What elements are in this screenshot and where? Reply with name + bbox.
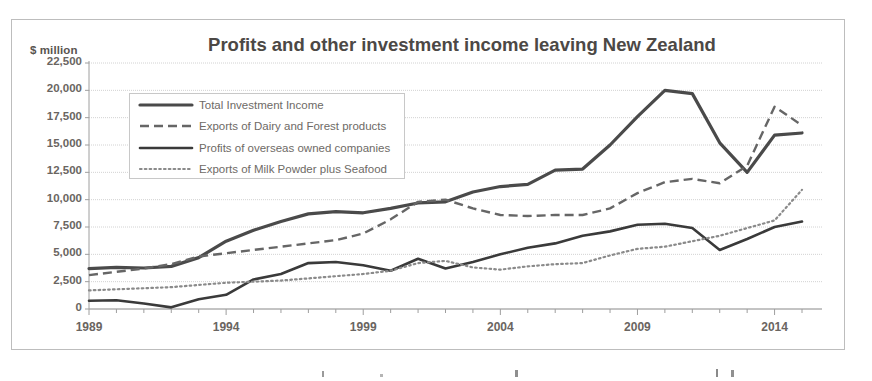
y-axis-tick-label: 2,500 [20,274,82,286]
legend-item[interactable]: Exports of Milk Powder plus Seafood [130,159,404,181]
y-axis-tick-label: 10,000 [20,192,82,204]
plot-area: 02,5005,0007,50010,00012,50015,00017,500… [12,20,846,351]
legend-item[interactable]: Profits of overseas owned companies [130,137,404,159]
scan-artifact-decoration [0,357,872,381]
legend-item[interactable]: Total Investment Income [130,94,404,116]
y-axis-tick-label: 12,500 [20,164,82,176]
legend-label: Exports of Dairy and Forest products [199,120,386,132]
y-axis-tick-label: 17,500 [20,110,82,122]
x-axis-tick-label: 1994 [196,320,256,334]
legend-line-swatch [138,120,194,132]
y-axis-tick-label: 20,000 [20,82,82,94]
chart-legend: Total Investment IncomeExports of Dairy … [129,93,405,179]
chart-frame: $ million Profits and other investment i… [11,19,845,350]
legend-line-swatch [138,163,194,175]
y-axis-tick-label: 22,500 [20,55,82,67]
plot-svg [12,20,846,351]
series-line-2 [89,222,802,308]
y-axis-tick-label: 7,500 [20,219,82,231]
y-axis-tick-label: 5,000 [20,246,82,258]
y-axis-tick-label: 15,000 [20,137,82,149]
legend-label: Exports of Milk Powder plus Seafood [199,163,387,175]
x-axis-tick-label: 2014 [745,320,805,334]
x-axis-tick-label: 1989 [59,320,119,334]
series-line-3 [89,190,802,291]
legend-line-swatch [138,142,194,154]
x-axis-tick-label: 2004 [470,320,530,334]
x-axis-tick-label: 1999 [333,320,393,334]
y-axis-tick-label: 0 [20,301,82,313]
legend-label: Total Investment Income [199,99,324,111]
legend-label: Profits of overseas owned companies [199,142,390,154]
x-axis-tick-label: 2009 [607,320,667,334]
legend-item[interactable]: Exports of Dairy and Forest products [130,116,404,138]
legend-line-swatch [138,99,194,111]
